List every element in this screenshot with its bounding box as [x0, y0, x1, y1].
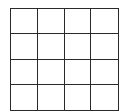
board-cell[interactable]	[11, 9, 38, 34]
board-cell[interactable]	[38, 9, 65, 34]
board-cell[interactable]	[11, 34, 38, 59]
board-cell[interactable]	[65, 34, 92, 59]
board-cell[interactable]	[91, 60, 118, 85]
board-cell[interactable]	[91, 85, 118, 110]
board-cell[interactable]	[38, 34, 65, 59]
board-cell[interactable]	[38, 85, 65, 110]
board-cell[interactable]	[65, 60, 92, 85]
board-cell[interactable]	[11, 85, 38, 110]
board-cell[interactable]	[91, 34, 118, 59]
board-cell[interactable]	[91, 9, 118, 34]
board-cell[interactable]	[38, 60, 65, 85]
board-cell[interactable]	[65, 9, 92, 34]
board-cell[interactable]	[11, 60, 38, 85]
board-cell[interactable]	[65, 85, 92, 110]
game-board	[10, 8, 119, 111]
